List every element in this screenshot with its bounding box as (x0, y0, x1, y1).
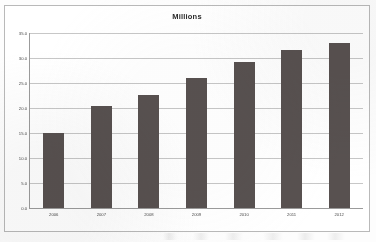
bar-slot: 2008 (125, 33, 173, 208)
bar-slot: 2010 (220, 33, 268, 208)
y-axis-tick-label: 5.0 (21, 181, 27, 186)
x-axis-tick-label: 2012 (335, 212, 344, 217)
bar[interactable] (234, 62, 255, 209)
bar[interactable] (281, 50, 302, 209)
bar[interactable] (138, 95, 159, 208)
y-axis-tick-label: 35.0 (19, 31, 27, 36)
x-axis-tick-label: 2009 (192, 212, 201, 217)
chart-title: Millions (5, 12, 369, 21)
bar-slot: 2009 (173, 33, 221, 208)
bar[interactable] (186, 78, 207, 209)
chart-page: Millions 35.030.025.020.015.010.05.00.0 … (0, 0, 376, 242)
x-axis-tick-label: 2010 (239, 212, 248, 217)
y-axis-tick-label: 30.0 (19, 56, 27, 61)
bar[interactable] (43, 133, 64, 209)
y-axis-tick-label: 0.0 (21, 206, 27, 211)
bar-slot: 2006 (30, 33, 78, 208)
bars-layer: 2006200720082009201020112012 (30, 33, 363, 208)
bar-slot: 2011 (268, 33, 316, 208)
bar-slot: 2007 (78, 33, 126, 208)
gridline (30, 208, 363, 209)
bar-slot: 2012 (315, 33, 363, 208)
y-axis-tick-label: 15.0 (19, 131, 27, 136)
x-axis-tick-label: 2008 (144, 212, 153, 217)
x-axis-tick-label: 2007 (97, 212, 106, 217)
y-axis-tick-label: 10.0 (19, 156, 27, 161)
y-axis-tick-label: 20.0 (19, 106, 27, 111)
bar[interactable] (329, 43, 350, 209)
bar[interactable] (91, 106, 112, 209)
x-axis-tick-label: 2006 (49, 212, 58, 217)
y-axis-tick-label: 25.0 (19, 81, 27, 86)
x-axis-tick-label: 2011 (287, 212, 296, 217)
plot-area: 35.030.025.020.015.010.05.00.0 200620072… (29, 33, 363, 209)
scan-artifact (163, 233, 363, 240)
chart-frame: Millions 35.030.025.020.015.010.05.00.0 … (4, 5, 370, 232)
